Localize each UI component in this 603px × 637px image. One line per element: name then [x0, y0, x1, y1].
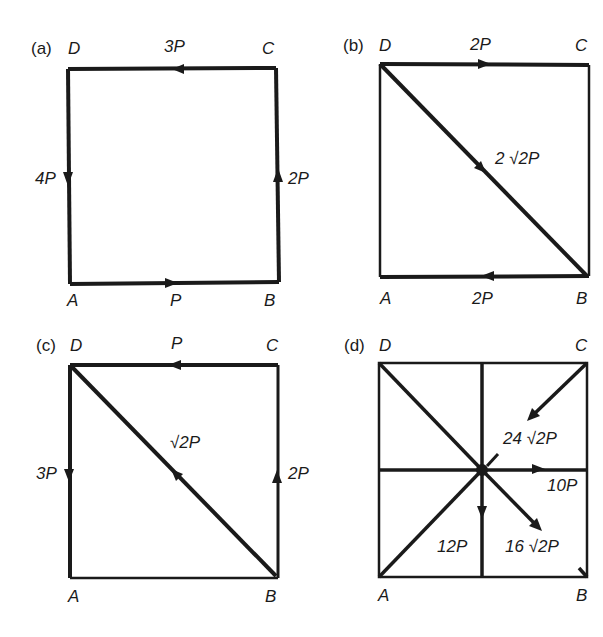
panel-b-force-bottom: 2P	[472, 290, 493, 307]
panel-b-vertex-b: B	[576, 290, 587, 307]
centre-point-icon	[476, 464, 488, 476]
panel-d-vertex-c: C	[575, 337, 587, 354]
arrow-down-icon	[477, 506, 487, 519]
arrow-right-icon	[165, 278, 178, 288]
panel-a-force-right: 2P	[288, 170, 309, 187]
panel-c-tag: (c)	[36, 337, 56, 354]
panel-c-arrowheads	[64, 360, 282, 483]
panel-a-force-bottom: P	[170, 292, 181, 309]
panel-d-force-16root2p: 16 √2P	[505, 538, 559, 555]
panel-b-tag: (b)	[343, 37, 364, 54]
arrow-right-icon	[478, 59, 491, 69]
panel-c-vertex-a: A	[68, 588, 79, 605]
panel-d-force-10p: 10P	[547, 477, 577, 494]
panel-b-vertex-c: C	[575, 37, 587, 54]
panel-c-vertex-c: C	[266, 337, 278, 354]
panel-a-force-left: 4P	[35, 170, 56, 187]
panel-b-force-top: 2P	[470, 36, 491, 53]
arrow-up-icon	[272, 470, 282, 483]
arrow-right-icon	[532, 464, 545, 474]
arrow-up-icon	[273, 168, 283, 182]
panel-a-vertex-a: A	[67, 292, 78, 309]
arrow-down-icon	[63, 172, 73, 186]
panel-b-arrowheads	[474, 59, 494, 281]
arrow-left-icon	[168, 360, 181, 370]
panel-b-force-diagonal: 2 √2P	[495, 150, 539, 167]
panel-c-force-diagonal: √2P	[170, 434, 200, 451]
panel-a-vertex-c: C	[262, 40, 274, 57]
panel-c-force-left: 3P	[36, 465, 57, 482]
panel-d-vertex-b: B	[576, 587, 587, 604]
panel-b-vertex-d: D	[379, 37, 391, 54]
panel-a-tag: (a)	[31, 40, 52, 57]
panel-d-tag: (d)	[344, 337, 365, 354]
panel-a-diagram	[68, 68, 279, 284]
panel-c-vertex-d: D	[70, 337, 82, 354]
arrow-down-icon	[64, 469, 74, 482]
panel-c-force-right: 2P	[288, 465, 309, 482]
panel-c-vertex-b: B	[265, 588, 276, 605]
arrow-left-icon	[481, 271, 494, 281]
panel-a-vertex-d: D	[68, 40, 80, 57]
panel-d-force-24root2p: 24 √2P	[503, 430, 557, 447]
panel-a-vertex-b: B	[264, 292, 275, 309]
panel-d-force-12p: 12P	[437, 538, 467, 555]
panel-a-arrowheads	[63, 64, 283, 288]
panel-d-vertex-d: D	[379, 337, 391, 354]
panel-b-vertex-a: A	[380, 290, 391, 307]
panel-d-vertex-a: A	[378, 587, 389, 604]
panel-c-force-top: P	[171, 335, 182, 352]
panel-a-force-top: 3P	[164, 38, 185, 55]
arrow-left-icon	[172, 64, 184, 74]
